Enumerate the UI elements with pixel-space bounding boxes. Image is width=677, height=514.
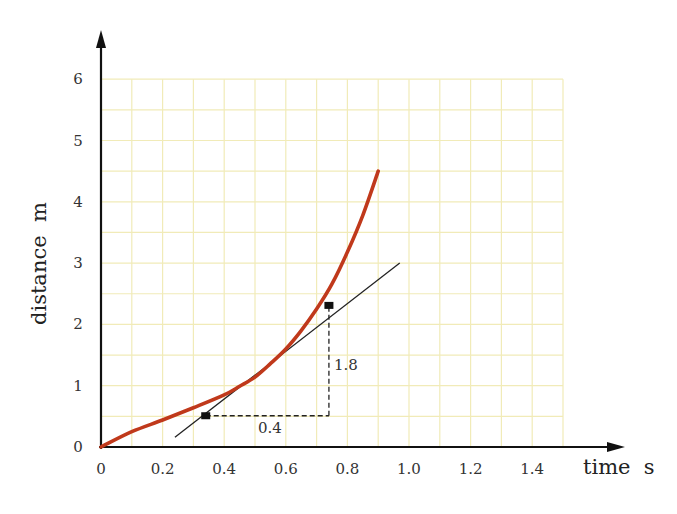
x-tick-label: 1.2 <box>459 460 483 478</box>
marker-square-icon <box>324 302 333 309</box>
distance-time-chart: 00.20.40.60.81.01.21.40123456 0.4 1.8 ti… <box>0 0 677 514</box>
x-tick-label: 0.8 <box>335 460 359 478</box>
x-tick-label: 0 <box>96 460 106 478</box>
y-axis-label: distance m <box>27 202 51 325</box>
x-axis-label: time s <box>583 455 655 479</box>
tangent-line <box>175 263 400 437</box>
x-tick-label: 0.2 <box>151 460 175 478</box>
x-tick-label: 1.4 <box>520 460 544 478</box>
tangent-segment <box>175 263 400 437</box>
y-tick-label: 6 <box>73 70 83 88</box>
axes <box>96 30 625 452</box>
y-tick-label: 5 <box>73 132 83 150</box>
x-tick-label: 1.0 <box>397 460 421 478</box>
x-tick-label: 0.4 <box>212 460 236 478</box>
distance-curve <box>101 171 378 447</box>
y-tick-label: 0 <box>73 438 83 456</box>
rise-label: 1.8 <box>334 356 358 374</box>
y-tick-label: 1 <box>73 377 83 395</box>
run-label: 0.4 <box>258 419 282 437</box>
y-tick-label: 4 <box>73 193 83 211</box>
marker-square-icon <box>201 412 210 419</box>
x-tick-label: 0.6 <box>274 460 298 478</box>
y-axis-arrow-icon <box>96 30 106 48</box>
y-tick-label: 3 <box>73 254 83 272</box>
grid <box>101 79 563 447</box>
y-tick-label: 2 <box>73 315 83 333</box>
x-axis-arrow-icon <box>607 442 625 452</box>
